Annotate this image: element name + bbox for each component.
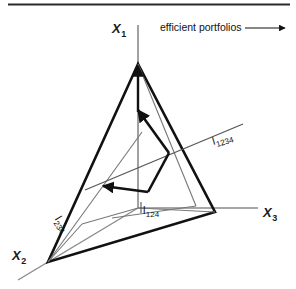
axis-label-x3: X3	[263, 206, 277, 223]
axis-x2	[18, 208, 138, 280]
simplex-triangle	[48, 64, 215, 262]
line-l234	[48, 132, 142, 262]
axis-label-x1: X1	[112, 22, 126, 39]
line-label-l124: l124	[143, 205, 159, 219]
efficient-path-lower	[103, 186, 148, 192]
diagram-canvas	[0, 0, 296, 289]
caption-efficient-portfolios: efficient portfolios	[160, 22, 242, 33]
axis-label-x2: X2	[12, 249, 26, 266]
figure-container: X1 X2 X3 l1234 l234 l124 efficient portf…	[0, 0, 296, 289]
inner-edge-apex-x3	[138, 64, 196, 206]
